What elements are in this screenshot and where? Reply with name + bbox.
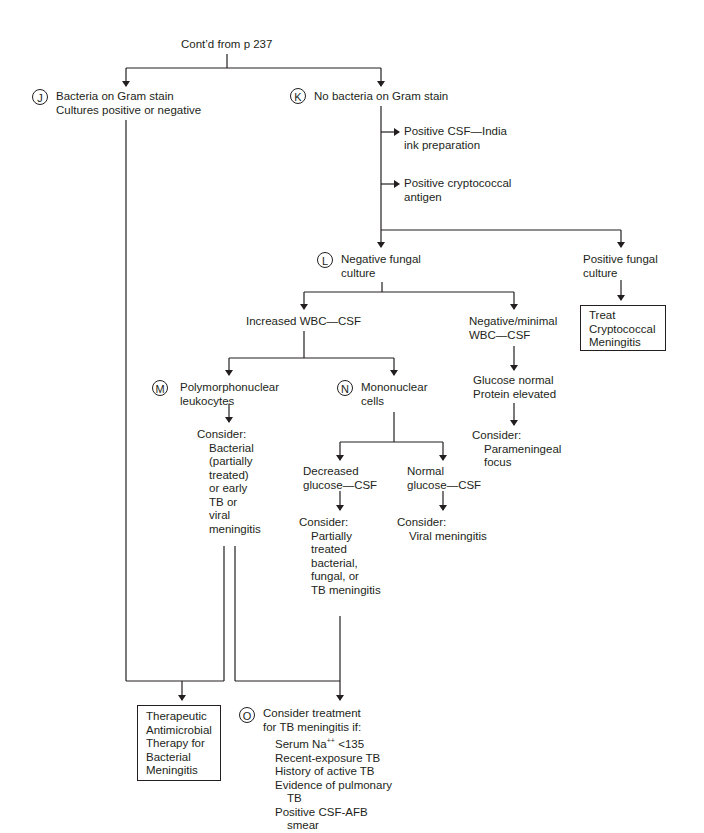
box-treat-cryptococcal-meningitis: Treat Cryptococcal Meningitis <box>580 305 666 351</box>
node-letter-o: O <box>239 707 255 723</box>
node-positive-india-ink: Positive CSF—India ink preparation <box>404 125 507 152</box>
criterion-csf-afb-smear: Positive CSF-AFB <box>263 806 392 820</box>
node-glucose-normal-protein-elevated: Glucose normal Protein elevated <box>473 374 556 401</box>
node-consider-parameningeal: Consider: Parameningeal focus <box>472 429 561 470</box>
node-letter-k: K <box>290 88 306 104</box>
node-k-no-bacteria: No bacteria on Gram stain <box>314 90 448 104</box>
node-j-bacteria-gram-stain: Bacteria on Gram stain Cultures positive… <box>56 90 201 117</box>
node-n-mononuclear: Mononuclear cells <box>361 381 427 408</box>
node-normal-glucose-csf: Normal glucose—CSF <box>407 465 481 492</box>
node-consider-viral-meningitis: Consider: Viral meningitis <box>397 516 487 543</box>
node-consider-partially-treated: Consider: Partially treated bacterial, f… <box>299 516 381 597</box>
box-therapeutic-antimicrobial: Therapeutic Antimicrobial Therapy for Ba… <box>137 705 221 781</box>
node-o-consider-tb-treatment: Consider treatment for TB meningitis if:… <box>263 707 392 833</box>
node-decreased-glucose-csf: Decreased glucose—CSF <box>303 465 377 492</box>
node-letter-j: J <box>32 89 48 105</box>
criterion-serum-sodium: Serum Na++ <135 <box>263 734 392 752</box>
node-letter-m: M <box>152 380 168 396</box>
criterion-pulmonary-tb: Evidence of pulmonary <box>263 779 392 793</box>
node-positive-cryptococcal-antigen: Positive cryptococcal antigen <box>404 177 511 204</box>
criterion-history-active-tb: History of active TB <box>263 765 392 779</box>
node-positive-fungal-culture: Positive fungal culture <box>583 253 658 280</box>
continued-from-label: Cont’d from p 237 <box>181 38 272 52</box>
node-consider-bacterial-tb-viral: Consider: Bacterial (partially treated) … <box>197 428 261 536</box>
node-letter-n: N <box>337 380 353 396</box>
node-negative-minimal-wbc: Negative/minimal WBC—CSF <box>469 315 557 342</box>
node-letter-l: L <box>317 252 333 268</box>
node-increased-wbc-csf: Increased WBC—CSF <box>246 315 361 329</box>
node-m-polymorphonuclear: Polymorphonuclear leukocytes <box>180 381 279 408</box>
criterion-recent-exposure: Recent-exposure TB <box>263 752 392 766</box>
node-l-negative-fungal-culture: Negative fungal culture <box>341 253 421 280</box>
